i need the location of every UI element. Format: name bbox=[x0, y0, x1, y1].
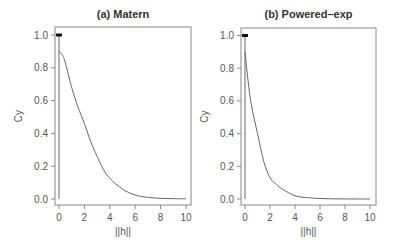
y-tick-label: 0.8 bbox=[220, 63, 234, 74]
x-tick-label: 8 bbox=[342, 212, 348, 223]
chart-title: (b) Powered–exp bbox=[264, 8, 352, 20]
point-marker bbox=[56, 34, 62, 37]
y-axis-label: Cy bbox=[13, 110, 24, 122]
x-tick-label: 4 bbox=[292, 212, 298, 223]
y-tick-label: 0.4 bbox=[220, 128, 234, 139]
x-axis-label: ||h|| bbox=[115, 226, 131, 237]
chart-panel-matern: (a) Matern0.00.20.40.60.81.00246810||h||… bbox=[13, 8, 192, 237]
x-tick-label: 2 bbox=[82, 212, 88, 223]
y-tick-label: 1.0 bbox=[34, 30, 48, 41]
x-tick-label: 10 bbox=[364, 212, 376, 223]
x-tick-label: 0 bbox=[56, 212, 62, 223]
y-tick-label: 0.2 bbox=[220, 161, 234, 172]
plot-frame bbox=[55, 27, 191, 205]
chart-title: (a) Matern bbox=[97, 8, 150, 20]
y-tick-label: 0.6 bbox=[220, 95, 234, 106]
y-tick-label: 0.2 bbox=[34, 161, 48, 172]
covariance-curve bbox=[59, 51, 186, 198]
x-tick-label: 2 bbox=[267, 212, 273, 223]
y-tick-label: 0.0 bbox=[220, 194, 234, 205]
x-tick-label: 4 bbox=[107, 212, 113, 223]
x-tick-label: 10 bbox=[180, 212, 192, 223]
chart-figure: (a) Matern0.00.20.40.60.81.00246810||h||… bbox=[0, 0, 393, 245]
x-tick-label: 0 bbox=[242, 212, 248, 223]
x-tick-label: 8 bbox=[158, 212, 164, 223]
x-tick-label: 6 bbox=[317, 212, 323, 223]
y-tick-label: 0.8 bbox=[34, 62, 48, 73]
y-tick-label: 0.4 bbox=[34, 128, 48, 139]
plot-frame bbox=[241, 28, 376, 205]
covariance-curve bbox=[245, 52, 370, 199]
y-tick-label: 0.6 bbox=[34, 95, 48, 106]
y-axis-label: Cy bbox=[199, 110, 210, 122]
x-axis-label: ||h|| bbox=[301, 226, 317, 237]
y-tick-label: 1.0 bbox=[220, 30, 234, 41]
point-marker bbox=[242, 34, 248, 37]
chart-panel-powered-exp: (b) Powered–exp0.00.20.40.60.81.00246810… bbox=[199, 8, 376, 237]
y-tick-label: 0.0 bbox=[34, 194, 48, 205]
x-tick-label: 6 bbox=[132, 212, 138, 223]
